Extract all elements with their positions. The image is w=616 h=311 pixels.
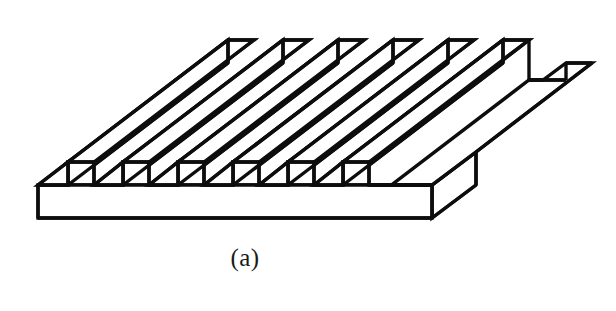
figure-container: (a) [0, 0, 616, 311]
plate-front-face [38, 185, 432, 218]
figure-caption: (a) [0, 243, 490, 273]
